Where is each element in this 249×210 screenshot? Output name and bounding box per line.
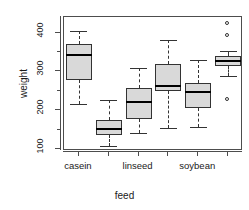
boxplot-figure: weight feed 100200300400 caseinlinseedso… [0, 0, 249, 210]
y-axis-line [60, 16, 61, 150]
whisker-lower [228, 66, 229, 75]
y-tick-label-300: 300 [35, 54, 45, 82]
median-line [215, 60, 241, 62]
y-tick-300 [55, 70, 60, 71]
plot-panel [63, 16, 242, 150]
x-axis-line [63, 151, 242, 152]
boxplot-series [64, 17, 241, 149]
y-tick-100 [55, 148, 60, 149]
y-tick-250 [57, 90, 60, 91]
x-tick-meatmeal [167, 152, 168, 156]
cap-upper [220, 51, 237, 52]
x-tick-linseed [138, 152, 139, 156]
outlier-point [225, 21, 229, 25]
y-tick-350 [57, 51, 60, 52]
x-tick-label-soybean: soybean [179, 160, 215, 171]
outlier-point [225, 97, 229, 101]
y-tick-label-100: 100 [35, 132, 45, 160]
x-tick-horsebean [108, 152, 109, 156]
x-tick-sunflower [227, 152, 228, 156]
y-tick-label-200: 200 [35, 93, 45, 121]
cap-lower [220, 76, 237, 77]
y-tick-200 [55, 109, 60, 110]
x-tick-casein [78, 152, 79, 156]
x-tick-label-casein: casein [64, 160, 91, 171]
x-tick-soybean [197, 152, 198, 156]
y-tick-400 [55, 32, 60, 33]
boxplot-group-sunflower [64, 17, 241, 149]
y-tick-150 [57, 129, 60, 130]
x-axis-title: feed [0, 190, 249, 201]
y-axis-title: weight [18, 54, 29, 114]
y-tick-label-400: 400 [35, 16, 45, 44]
x-tick-label-linseed: linseed [123, 160, 153, 171]
outlier-point [225, 33, 229, 37]
